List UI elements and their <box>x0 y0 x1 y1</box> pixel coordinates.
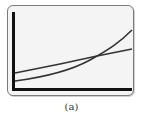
calculator-graph-figure: (a) <box>0 0 143 121</box>
exponential-curve <box>15 30 132 81</box>
figure-caption: (a) <box>0 101 143 112</box>
linear-curve <box>15 49 132 73</box>
